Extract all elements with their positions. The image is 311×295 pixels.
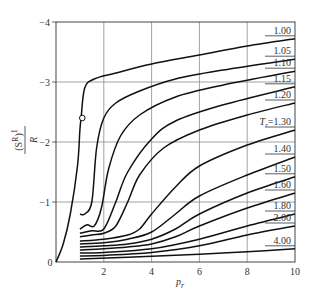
x-tick-label: 4	[149, 266, 154, 277]
curve-label: 2.00	[274, 212, 292, 223]
curve-tr-4.00	[80, 249, 295, 259]
curve-label: 1.60	[274, 179, 292, 190]
curve-label: 1.80	[274, 200, 292, 211]
curve-label: 1.05	[274, 45, 292, 56]
curve-label: 1.10	[274, 57, 292, 68]
curve-label: 1.15	[274, 73, 292, 84]
curve-tr-1.05	[80, 59, 295, 215]
x-tick-label: 6	[197, 266, 202, 277]
isotherm-curves	[56, 39, 295, 262]
y-tick-label: −1	[39, 197, 50, 208]
chart: 0246810−1−2−3−4 1.001.051.101.151.20Tr=1…	[0, 0, 311, 295]
curve-label: 1.50	[274, 163, 292, 174]
svg-text:(SR)1: (SR)1	[10, 129, 25, 151]
curve-tr-1.15	[80, 87, 295, 233]
y-tick-label: −4	[39, 17, 50, 28]
x-tick-label: 10	[290, 266, 300, 277]
curve-label: 4.00	[274, 235, 292, 246]
y-tick-label: −2	[39, 137, 50, 148]
x-tick-label: 0	[48, 257, 53, 268]
x-axis-label: pr	[175, 276, 185, 290]
markers	[79, 115, 85, 121]
x-tick-label: 2	[101, 266, 106, 277]
curve-label: 1.40	[274, 143, 292, 154]
x-tick-label: 8	[245, 266, 250, 277]
svg-text:R: R	[28, 137, 39, 144]
curve-tr-1.30	[80, 130, 295, 241]
curve-label: 1.20	[274, 89, 292, 100]
curve-label: 1.00	[274, 25, 292, 36]
y-axis-label: (SR)1 R	[10, 126, 39, 154]
y-tick-label: −3	[39, 77, 50, 88]
critical-point-marker	[79, 115, 85, 121]
